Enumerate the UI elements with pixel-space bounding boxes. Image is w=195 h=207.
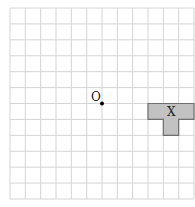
origin-label: O: [91, 91, 101, 103]
grid-diagram: [0, 0, 195, 207]
shape-x-label: X: [167, 106, 176, 118]
